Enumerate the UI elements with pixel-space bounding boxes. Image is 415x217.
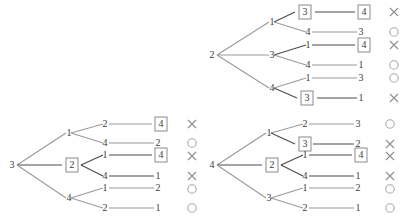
tree-node-l3-5: 1 (359, 93, 364, 103)
circle-mark (187, 138, 198, 149)
tree-node-l2-0-boxed: 3 (299, 5, 312, 20)
tree-node-l3-3: 1 (359, 60, 364, 70)
circle-mark (187, 184, 198, 195)
tree-node-l3-0-boxed: 4 (155, 117, 168, 132)
tree-node-l1-2: 4 (67, 193, 72, 203)
circle-mark (187, 203, 198, 214)
tree-node-l2-2: 1 (303, 150, 308, 160)
tree-node-l2-0: 2 (103, 119, 108, 129)
tree-node-l3-3: 1 (156, 171, 161, 181)
tree-node-l2-2: 1 (103, 150, 108, 160)
circle-mark (389, 27, 400, 38)
tree-node-l1-1-boxed: 2 (266, 158, 279, 173)
tree-node-root: 2 (210, 50, 215, 60)
tree-node-l3-4: 3 (359, 73, 364, 83)
tree-node-l1-2: 3 (267, 193, 272, 203)
cross-mark (385, 139, 396, 150)
cross-mark (389, 7, 400, 18)
tree-node-l2-5: 2 (103, 203, 108, 213)
tree-node-l2-2: 1 (306, 40, 311, 50)
tree-node-l2-4: 1 (306, 73, 311, 83)
tree-node-l2-5-boxed: 3 (301, 91, 314, 106)
tree-node-root: 4 (210, 160, 215, 170)
tree-node-l2-1: 4 (103, 138, 108, 148)
tree-node-l3-4: 2 (356, 183, 361, 193)
tree-node-l2-4: 1 (103, 183, 108, 193)
cross-mark (187, 151, 198, 162)
tree-top-right-edges (217, 12, 357, 98)
tree-node-l2-3: 4 (303, 171, 308, 181)
circle-mark (389, 73, 400, 84)
tree-node-l2-5: 2 (303, 203, 308, 213)
cross-mark (389, 93, 400, 104)
tree-bottom-right-edges (217, 124, 354, 208)
tree-node-l2-0: 2 (303, 119, 308, 129)
tree-node-root: 3 (10, 160, 15, 170)
tree-bottom-left-edges (17, 124, 154, 208)
figure-canvas (0, 0, 415, 217)
circle-mark (385, 119, 396, 130)
tree-node-l2-3: 4 (306, 60, 311, 70)
tree-node-l2-3: 4 (103, 171, 108, 181)
circle-mark (389, 60, 400, 71)
tree-node-l2-1: 4 (306, 27, 311, 37)
tree-node-l3-4: 2 (156, 183, 161, 193)
tree-node-l3-2-boxed: 4 (355, 148, 368, 163)
cross-mark (187, 171, 198, 182)
circle-mark (385, 184, 396, 195)
tree-node-l3-1: 3 (359, 27, 364, 37)
tree-node-l1-0: 1 (270, 17, 275, 27)
tree-node-l3-5: 1 (156, 203, 161, 213)
tree-node-l3-0-boxed: 4 (358, 5, 371, 20)
circle-mark (385, 203, 396, 214)
cross-mark (389, 40, 400, 51)
tree-node-l1-1: 3 (270, 50, 275, 60)
tree-node-l1-0: 1 (67, 128, 72, 138)
tree-node-l2-4: 1 (303, 183, 308, 193)
cross-mark (385, 151, 396, 162)
tree-node-l3-3: 1 (356, 171, 361, 181)
tree-node-l3-5: 1 (356, 203, 361, 213)
tree-node-l1-0: 1 (267, 128, 272, 138)
tree-node-l3-0: 3 (356, 119, 361, 129)
tree-node-l3-2-boxed: 4 (155, 148, 168, 163)
tree-node-l1-2: 4 (270, 83, 275, 93)
tree-node-l3-1: 2 (156, 138, 161, 148)
tree-node-l3-2-boxed: 4 (358, 38, 371, 53)
cross-mark (187, 119, 198, 130)
tree-node-l1-1-boxed: 2 (66, 158, 79, 173)
cross-mark (385, 171, 396, 182)
